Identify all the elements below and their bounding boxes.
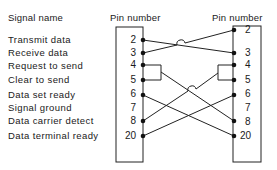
left-pin-2: 2	[122, 34, 136, 45]
left-pin-20: 20	[122, 130, 136, 141]
right-pin-4: 4	[245, 59, 251, 70]
wire-lloop-r8	[161, 72, 234, 121]
loop-right-4-5	[218, 65, 234, 80]
right-pin-2: 2	[245, 24, 251, 35]
right-pin-5: 5	[245, 74, 251, 85]
left-pin-4: 4	[122, 59, 136, 70]
right-pin-20: 20	[240, 130, 251, 141]
left-pin-6: 6	[122, 88, 136, 99]
left-pin-7: 7	[122, 102, 136, 113]
left-pin-3: 3	[122, 47, 136, 58]
right-pin-7: 7	[245, 102, 251, 113]
loop-left-4-5	[143, 65, 161, 80]
connector-diagram	[0, 0, 277, 170]
left-pin-8: 8	[122, 115, 136, 126]
right-pin-8: 8	[245, 116, 251, 127]
left-pin-5: 5	[122, 74, 136, 85]
right-pin-6: 6	[245, 88, 251, 99]
right-pin-3: 3	[245, 47, 251, 58]
